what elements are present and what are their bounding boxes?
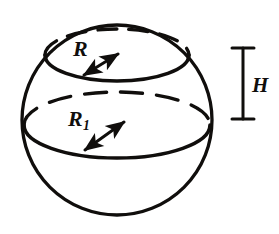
upper-circle-back-arc bbox=[45, 29, 189, 55]
geometry-figure: R R1 H bbox=[0, 0, 279, 234]
upper-radius-label: R bbox=[73, 38, 88, 60]
lower-radius-label-base: R bbox=[68, 106, 83, 131]
figure-canvas bbox=[0, 0, 279, 234]
upper-circle-front-arc bbox=[45, 55, 189, 81]
lower-circle-back-arc bbox=[24, 92, 210, 125]
lower-radius-label-subscript: 1 bbox=[83, 118, 90, 133]
upper-radius-arrow bbox=[84, 54, 118, 75]
lower-radius-label: R1 bbox=[68, 108, 90, 132]
lower-radius-arrow bbox=[85, 122, 124, 150]
lower-circle-front-arc bbox=[24, 125, 210, 158]
height-label: H bbox=[252, 75, 268, 96]
